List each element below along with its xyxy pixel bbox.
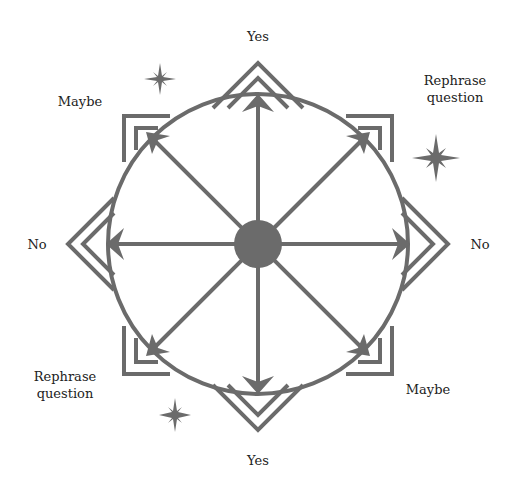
star-bottom-left-icon [159,398,191,432]
label-bottom-left-line2: question [20,385,110,402]
label-bottom-yes: Yes [238,452,278,469]
label-right-no: No [465,236,495,253]
label-top-yes: Yes [238,28,278,45]
label-top-right-line2: question [410,89,500,106]
label-top-right-line1: Rephrase [410,72,500,89]
center-hub [234,220,282,268]
top-left-outer-corner [124,116,170,162]
top-right-outer-corner [346,116,392,162]
label-bottom-left-line1: Rephrase [20,368,110,385]
label-left-no: No [22,236,52,253]
label-top-left-maybe: Maybe [52,93,108,110]
label-bottom-left-rephrase: Rephrase question [20,368,110,402]
star-top-left-icon [144,63,176,95]
star-right-icon [412,134,460,182]
label-bottom-right-maybe: Maybe [400,381,456,398]
label-top-right-rephrase: Rephrase question [410,72,500,106]
